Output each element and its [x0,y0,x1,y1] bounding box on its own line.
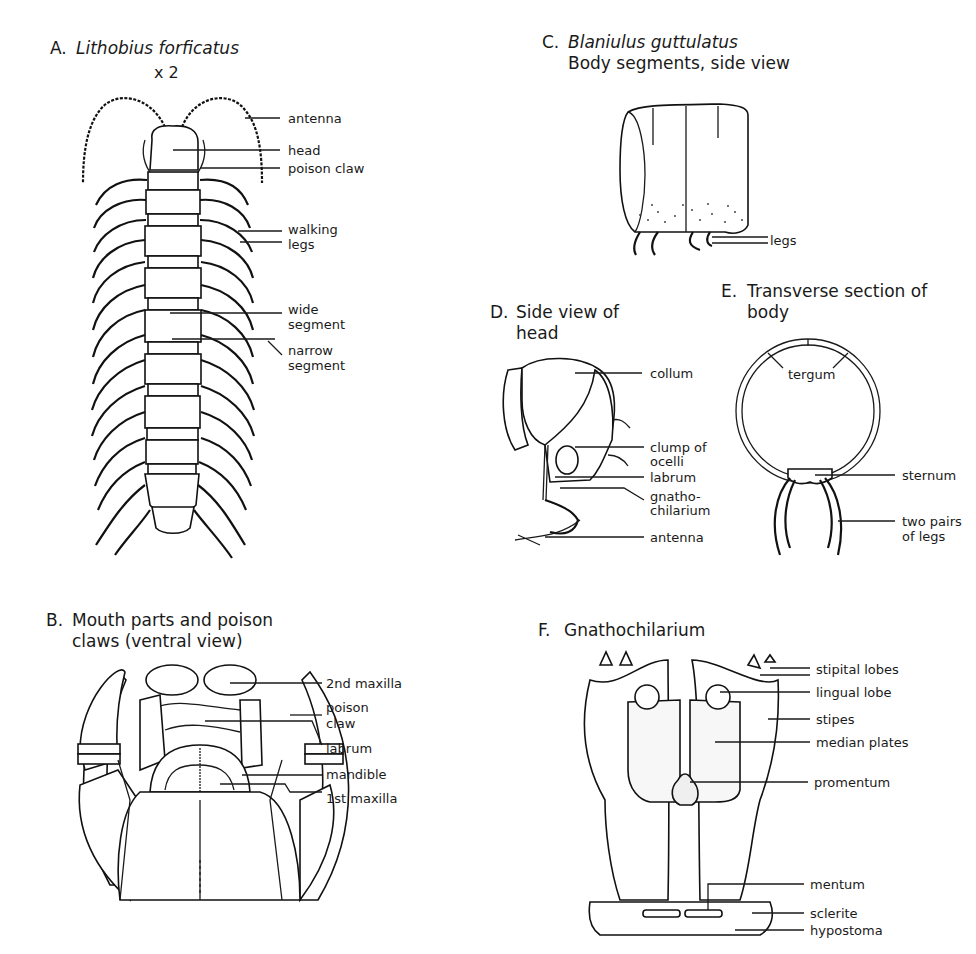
label-legs-c: legs [770,233,797,248]
centipede-drawing [83,98,282,558]
mouthparts-drawing [78,665,349,900]
label-mentum: mentum [810,877,865,892]
label-two-pairs: two pairs [902,514,962,529]
label-claw-b: claw [326,716,355,731]
gnathochilarium-drawing [584,652,810,935]
label-narrow-a: narrow [288,343,333,358]
label-1st-maxilla: 1st maxilla [326,791,397,806]
label-mandible: mandible [326,767,387,782]
panel-f-letter: F. [538,620,564,641]
label-2nd-maxilla: 2nd maxilla [326,676,402,691]
label-head-a: head [288,143,320,158]
panel-d-letter: D. [490,302,516,323]
label-stipes: stipes [816,712,855,727]
centipede-body [145,172,201,533]
label-tergum: tergum [788,367,835,382]
panel-b-title-line2: claws (ventral view) [72,631,273,652]
centipede-legs-right [194,180,254,558]
panel-c-species: Blaniulus guttulatus [568,32,738,52]
head-side-drawing [503,358,644,545]
label-hypostoma: hypostoma [810,923,883,938]
panel-a-scale: x 2 [154,62,179,83]
label-clump-of: clump of [650,440,707,455]
label-legs-a: legs [288,237,315,252]
panel-a-species: Lithobius forficatus [76,38,239,58]
label-ocelli: ocelli [650,454,684,469]
panel-e-title: E.Transverse section of body [721,281,927,323]
label-sternum: sternum [902,468,956,483]
label-stipital-lobes: stipital lobes [816,662,899,677]
panel-c-letter: C. [542,32,568,53]
label-sclerite: sclerite [810,906,858,921]
panel-b-letter: B. [46,610,72,631]
label-wide-segment-a: segment [288,317,345,332]
centipede-legs-left [92,180,150,555]
label-labrum-b: labrum [326,741,372,756]
label-promentum: promentum [814,775,890,790]
label-chilarium: chilarium [650,503,710,518]
label-median-plates: median plates [816,735,909,750]
label-antenna-d: antenna [650,530,704,545]
label-wide-a: wide [288,302,319,317]
panel-b-title: B.Mouth parts and poison claws (ventral … [46,610,273,652]
panel-b-title-line1: Mouth parts and poison [72,610,273,630]
panel-e-title-line2: body [747,302,927,323]
label-walking-a: walking [288,222,338,237]
panel-d-title: D.Side view of head [490,302,619,344]
panel-c-title: C.Blaniulus guttulatus Body segments, si… [542,32,790,74]
label-antenna-a: antenna [288,111,342,126]
panel-e-letter: E. [721,281,747,302]
panel-e-title-line1: Transverse section of [747,281,927,301]
diagram-drawings [0,0,976,954]
panel-f-title-text: Gnathochilarium [564,620,705,640]
label-collum: collum [650,366,693,381]
label-poison-b: poison [326,700,369,715]
label-labrum-d: labrum [650,470,696,485]
panel-c-subtitle: Body segments, side view [568,53,790,74]
panel-a-title: A.Lithobius forficatus [50,38,239,59]
panel-f-title: F.Gnathochilarium [538,620,705,641]
label-narrow-segment-a: segment [288,358,345,373]
label-poison-claw-a: poison claw [288,161,364,176]
body-segments-drawing [620,104,768,255]
label-lingual-lobe: lingual lobe [816,685,891,700]
panel-a-letter: A. [50,38,76,59]
label-gnatho: gnatho- [650,489,701,504]
label-of-legs: of legs [902,529,945,544]
panel-d-title-line2: head [516,323,619,344]
panel-d-title-line1: Side view of [516,302,619,322]
